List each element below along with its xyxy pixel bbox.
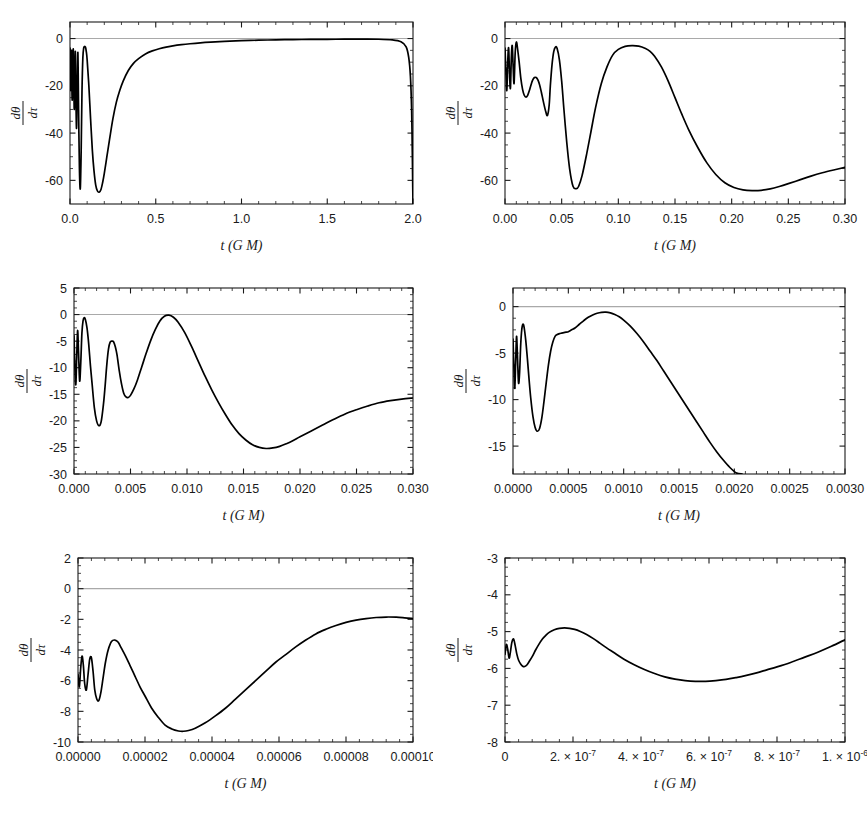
x-tick-label: 0.0 (61, 212, 78, 226)
x-tick-label: 0.00004 (189, 750, 234, 764)
x-tick-label: 8. × 10-7 (754, 748, 800, 764)
y-axis-label-denominator: dτ (25, 106, 40, 119)
x-axis-label: t (G M) (225, 776, 267, 792)
y-tick-label: 2 (64, 552, 71, 566)
data-curve (513, 312, 742, 474)
x-tick-label: 0.0015 (660, 482, 698, 496)
y-tick-label: 5 (60, 282, 67, 296)
x-axis-label: t (G M) (221, 238, 263, 254)
y-axis-label: dθdτ (443, 101, 475, 125)
y-axis-label-numerator: dθ (8, 106, 23, 120)
figure-panel-grid: 0.00.51.01.52.00-20-40-60t (G M)dθdτ 0.0… (0, 0, 867, 814)
plot-svg-1: 0.00.51.01.52.00-20-40-60t (G M)dθdτ (0, 0, 433, 270)
x-tick-label: 0.0005 (549, 482, 587, 496)
data-curve (505, 628, 845, 681)
data-curve (74, 315, 413, 448)
x-axis-label: t (G M) (654, 776, 696, 792)
plot-svg-2: 0.000.050.100.150.200.250.300-20-40-60t … (433, 0, 867, 270)
plot-frame (78, 558, 413, 742)
y-tick-label: -8 (60, 705, 71, 719)
x-tick-label: 0.30 (833, 212, 857, 226)
y-tick-label: -15 (49, 388, 67, 402)
x-tick-label: 0.00006 (256, 750, 301, 764)
x-tick-label: 1.5 (319, 212, 336, 226)
y-axis-label-numerator: dθ (12, 374, 27, 388)
x-tick-label: 4. × 10-7 (618, 748, 664, 764)
x-tick-label: 0.005 (115, 482, 146, 496)
x-tick-label: 1. × 10-6 (822, 748, 867, 764)
y-tick-label: 0 (56, 32, 63, 46)
y-tick-label: -3 (487, 552, 498, 566)
plot-svg-3: 0.0000.0050.0100.0150.0200.0250.03050-5-… (0, 270, 433, 540)
x-tick-label: 2. × 10-7 (550, 748, 596, 764)
y-axis-label-numerator: dθ (451, 374, 466, 388)
plot-panel-4: 0.00000.00050.00100.00150.00200.00250.00… (433, 270, 867, 540)
x-tick-label: 0.020 (284, 482, 315, 496)
x-tick-label: 0.00 (493, 212, 517, 226)
x-tick-label: 0.0020 (715, 482, 753, 496)
x-tick-label: 0.0025 (771, 482, 809, 496)
x-tick-label: 0.10 (606, 212, 630, 226)
y-tick-label: -10 (488, 393, 506, 407)
plot-panel-6: 02. × 10-74. × 10-76. × 10-78. × 10-71. … (433, 540, 867, 814)
y-tick-label: -5 (495, 347, 506, 361)
y-tick-label: 0 (499, 300, 506, 314)
plot-svg-6: 02. × 10-74. × 10-76. × 10-78. × 10-71. … (433, 540, 867, 814)
y-axis-label-denominator: dτ (29, 374, 44, 387)
x-tick-label: 0.00002 (122, 750, 167, 764)
y-axis-label-denominator: dτ (460, 106, 475, 119)
y-tick-label: -40 (45, 127, 63, 141)
plot-svg-4: 0.00000.00050.00100.00150.00200.00250.00… (433, 270, 867, 540)
data-curve (505, 42, 845, 191)
y-tick-label: -60 (480, 174, 498, 188)
y-tick-label: -5 (487, 625, 498, 639)
plot-panel-5: 0.000000.000020.000040.000060.000080.000… (0, 540, 433, 814)
y-tick-label: -10 (53, 736, 71, 750)
plot-svg-5: 0.000000.000020.000040.000060.000080.000… (0, 540, 433, 814)
x-tick-label: 0.015 (228, 482, 259, 496)
data-curve (78, 617, 413, 731)
y-axis-label-denominator: dτ (468, 374, 483, 387)
x-tick-label: 0.05 (549, 212, 573, 226)
y-axis-label-numerator: dθ (443, 643, 458, 657)
plot-panel-3: 0.0000.0050.0100.0150.0200.0250.03050-5-… (0, 270, 433, 540)
x-tick-label: 0 (502, 750, 509, 764)
y-tick-label: -40 (480, 127, 498, 141)
data-curve (70, 39, 413, 204)
x-tick-label: 0.030 (397, 482, 428, 496)
plot-frame (505, 22, 845, 204)
y-tick-label: -25 (49, 441, 67, 455)
y-tick-label: -10 (49, 361, 67, 375)
plot-panel-2: 0.000.050.100.150.200.250.300-20-40-60t … (433, 0, 867, 270)
y-tick-label: -6 (487, 662, 498, 676)
plot-panel-1: 0.00.51.01.52.00-20-40-60t (G M)dθdτ (0, 0, 433, 270)
y-tick-label: 0 (491, 32, 498, 46)
plot-frame (70, 22, 413, 204)
x-tick-label: 0.15 (663, 212, 687, 226)
y-tick-label: -60 (45, 174, 63, 188)
x-tick-label: 6. × 10-7 (686, 748, 732, 764)
x-tick-label: 0.0030 (826, 482, 864, 496)
y-tick-label: 0 (64, 582, 71, 596)
x-axis-label: t (G M) (654, 238, 696, 254)
x-tick-label: 0.00008 (323, 750, 368, 764)
y-axis-label-numerator: dθ (16, 643, 31, 657)
x-tick-label: 0.00000 (55, 750, 100, 764)
x-tick-label: 2.0 (404, 212, 421, 226)
y-axis-label: dθdτ (16, 638, 48, 662)
y-tick-label: -30 (49, 468, 67, 482)
x-axis-label: t (G M) (223, 508, 265, 524)
y-tick-label: -5 (56, 335, 67, 349)
x-tick-label: 1.0 (233, 212, 250, 226)
y-tick-label: -20 (45, 79, 63, 93)
y-tick-label: -8 (487, 736, 498, 750)
y-axis-label: dθdτ (12, 369, 44, 393)
plot-frame (74, 288, 413, 474)
y-tick-label: -2 (60, 613, 71, 627)
x-tick-label: 0.000 (58, 482, 89, 496)
y-tick-label: -15 (488, 440, 506, 454)
x-tick-label: 0.25 (776, 212, 800, 226)
y-axis-label-denominator: dτ (33, 643, 48, 656)
y-axis-label-denominator: dτ (460, 643, 475, 656)
x-tick-label: 0.0010 (605, 482, 643, 496)
